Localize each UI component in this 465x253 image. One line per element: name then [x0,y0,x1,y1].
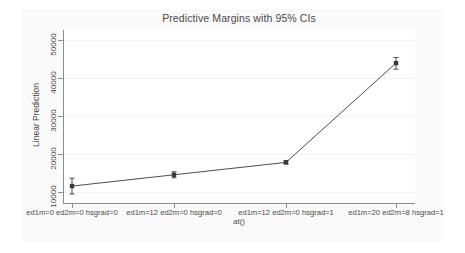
data-point-marker [172,173,176,177]
data-point-marker [70,184,74,188]
error-bar-group [70,57,399,194]
predictive-margins-chart: Predictive Margins with 95% CIs 50000 40… [0,0,465,253]
marker-group [70,61,398,188]
data-point-marker [394,61,398,65]
data-point-marker [284,160,288,164]
series-layer [0,0,465,253]
series-line [72,63,396,186]
